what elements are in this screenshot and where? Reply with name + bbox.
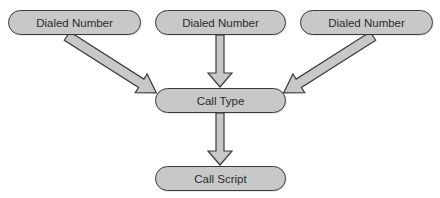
arrow-dn3-to-ct — [278, 27, 379, 103]
node-label: Call Script — [194, 173, 246, 185]
dialed-number-node-2: Dialed Number — [155, 10, 286, 35]
dialed-number-node-1: Dialed Number — [8, 10, 141, 35]
node-label: Dialed Number — [182, 17, 259, 29]
call-type-node: Call Type — [155, 88, 286, 113]
node-label: Call Type — [197, 95, 245, 107]
node-label: Dialed Number — [328, 17, 405, 29]
arrow-ct-to-cs — [208, 113, 232, 165]
arrow-dn1-to-ct — [61, 27, 162, 103]
call-script-node: Call Script — [155, 166, 286, 191]
node-label: Dialed Number — [36, 17, 113, 29]
arrow-dn2-to-ct — [208, 35, 232, 87]
dialed-number-node-3: Dialed Number — [300, 10, 433, 35]
